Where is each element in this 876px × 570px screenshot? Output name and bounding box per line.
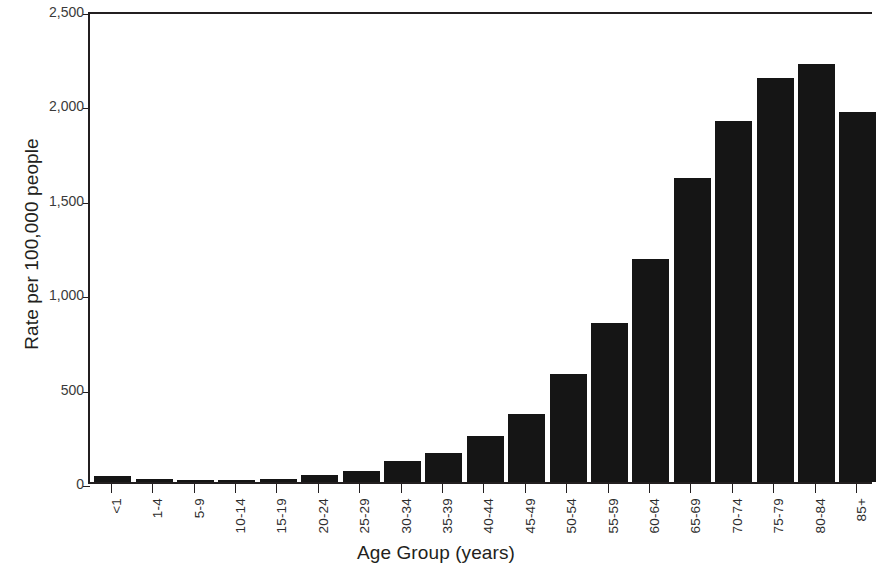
x-axis-tick-mark [690,484,691,493]
bar [177,480,214,483]
x-axis-tick-mark [773,484,774,493]
y-axis-tick-labels: 05001,0001,5002,0002,500 [20,0,84,570]
x-axis-tick-label: 60-64 [646,498,661,534]
x-axis-title: Age Group (years) [0,542,872,564]
x-axis-tick-mark [856,484,857,493]
x-axis-tick-mark [608,484,609,493]
x-axis-tick-label: 10-14 [232,498,247,534]
y-axis-tick-mark [83,108,90,109]
x-axis-tick-mark [111,484,112,493]
x-axis-tick-label: 15-19 [274,498,289,534]
x-axis-tick-mark [649,484,650,493]
x-axis-tick-label: 25-29 [357,498,372,534]
x-axis-tick-mark [732,484,733,493]
x-axis-tick-mark [442,484,443,493]
x-axis-tick-label: 35-39 [439,498,454,534]
y-axis-tick-mark [83,392,90,393]
bar [757,78,794,482]
x-axis-tick-mark [152,484,153,493]
bar [632,259,669,482]
bar [591,323,628,482]
x-axis-tick-mark [401,484,402,493]
bar [218,480,255,483]
bar [839,112,876,482]
x-axis-tick-label: 1-4 [150,498,165,518]
y-axis-tick-label: 1,500 [24,193,84,209]
x-axis-tick-mark [483,484,484,493]
x-axis-tick-mark [359,484,360,493]
x-axis-tick-label: 30-34 [398,498,413,534]
y-axis-tick-mark [83,14,90,15]
x-axis-tick-label: 85+ [853,498,868,522]
x-axis-tick-mark [525,484,526,493]
x-axis-tick-label: 45-49 [522,498,537,534]
plot-area [88,12,872,484]
y-axis-tick-label: 2,000 [24,98,84,114]
x-axis-tick-label: 5-9 [191,498,206,518]
bar [425,453,462,482]
x-axis-tick-mark [276,484,277,493]
x-axis-tick-mark [318,484,319,493]
x-axis-tick-mark [815,484,816,493]
bar [94,476,131,482]
bar [384,461,421,482]
y-axis-tick-label: 2,500 [24,4,84,20]
bar [674,178,711,482]
x-axis-tick-label: 20-24 [315,498,330,534]
bar [508,414,545,482]
x-axis-tick-label: 75-79 [771,498,786,534]
x-axis-tick-label: 55-59 [605,498,620,534]
x-axis-tick-mark [194,484,195,493]
y-axis-tick-label: 1,000 [24,287,84,303]
x-axis-tick-label: 70-74 [729,498,744,534]
y-axis-tick-mark [83,203,90,204]
bar [260,479,297,482]
x-axis-tick-label: 80-84 [812,498,827,534]
x-axis-tick-label: 50-54 [564,498,579,534]
bar [550,374,587,482]
bar-series [90,14,872,482]
y-axis-tick-mark [83,297,90,298]
bar [467,436,504,482]
y-axis-tick-label: 500 [24,382,84,398]
bar [798,64,835,482]
x-axis-tick-label: <1 [108,498,123,514]
bar [301,475,338,482]
y-axis-tick-label: 0 [24,476,84,492]
bar [715,121,752,482]
x-axis-tick-label: 40-44 [481,498,496,534]
x-axis-tick-mark [566,484,567,493]
x-axis-tick-label: 65-69 [688,498,703,534]
bar [136,479,173,482]
bar [343,471,380,482]
x-axis-tick-mark [235,484,236,493]
